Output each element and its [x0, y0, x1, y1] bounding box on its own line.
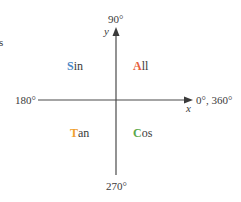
angle-label-180: 180°: [15, 94, 36, 106]
angle-label-90: 90°: [108, 13, 123, 25]
quadrant-tan-rest: an: [78, 126, 89, 140]
quadrant-cos-initial: C: [133, 126, 142, 140]
quadrant-all-rest: ll: [142, 59, 149, 73]
quadrant-all-initial: A: [133, 59, 142, 73]
quadrant-cos-label: Cos: [133, 127, 152, 140]
quadrant-tan-initial: T: [70, 126, 78, 140]
quadrant-tan-label: Tan: [70, 127, 89, 140]
angle-label-0-360: 0°, 360°: [196, 94, 232, 106]
angle-label-270: 270°: [106, 180, 127, 192]
quadrant-cos-rest: os: [142, 126, 153, 140]
quadrant-sin-rest: in: [74, 59, 83, 73]
quadrant-sin-label: Sin: [67, 60, 83, 73]
y-axis-arrow-icon: [113, 27, 120, 36]
quadrant-all-label: All: [133, 60, 148, 73]
quadrant-sin-initial: S: [67, 59, 74, 73]
y-axis-label: y: [104, 25, 109, 37]
x-axis-label: x: [186, 102, 191, 114]
